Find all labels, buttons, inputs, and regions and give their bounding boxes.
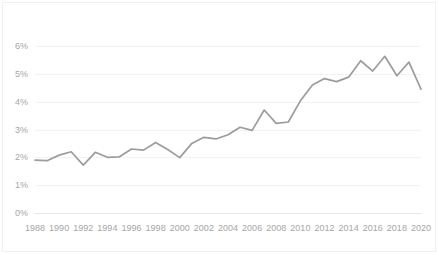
line-chart: 0%1%2%3%4%5%6% 1988199019921994199619982… <box>0 0 439 255</box>
series-line <box>35 56 421 165</box>
data-series-layer <box>35 56 421 165</box>
plot-area <box>0 0 439 255</box>
gridlines <box>35 47 421 214</box>
